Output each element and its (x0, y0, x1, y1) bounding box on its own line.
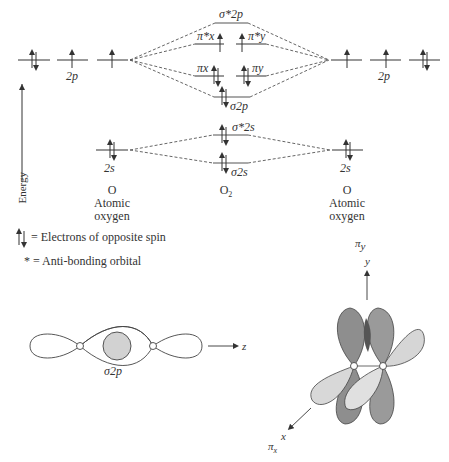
correlation-lines-2p (130, 23, 329, 97)
left-lobe (30, 334, 80, 358)
pi-y-label: πy (252, 61, 264, 75)
svg-text:O: O (343, 183, 352, 197)
sigma-2p-figure: z σ2p (30, 327, 247, 379)
svg-text:O2: O2 (220, 183, 233, 199)
mo-sigma-2s: σ2s (213, 155, 248, 179)
mo-sigma-star-2s: σ*2s (213, 120, 255, 143)
nucleus-right (380, 363, 387, 370)
mo-pi-star-y: π*y (236, 29, 266, 52)
svg-text:Atomic: Atomic (329, 196, 365, 210)
energy-axis: Energy (16, 84, 28, 204)
energy-label: Energy (16, 172, 28, 204)
left-2p-orbitals: 2p (18, 52, 128, 83)
sigma-star-2p-label: σ*2p (219, 7, 243, 21)
column-label-center: O2 (220, 183, 233, 199)
right-lobe (153, 334, 202, 358)
nucleus-left (77, 343, 84, 350)
svg-text:oxygen: oxygen (329, 209, 364, 223)
left-2s-orbital: 2s (96, 142, 128, 175)
svg-text:Atomic: Atomic (94, 196, 130, 210)
sigma-2p-caption: σ2p (104, 364, 122, 378)
nucleus-left (351, 363, 358, 370)
nucleus-right (150, 343, 157, 350)
pi-orbitals-figure: πy y x πx (268, 237, 424, 455)
z-axis-label: z (241, 340, 247, 352)
column-label-right: O Atomic oxygen (329, 183, 365, 223)
sigma-2p-label: σ2p (230, 99, 248, 113)
right-2p-label: 2p (378, 69, 390, 83)
pi-y-upper-lobe-left (337, 308, 364, 366)
molecule-symbol: O (220, 183, 229, 197)
legend: = Electrons of opposite spin * = Anti-bo… (19, 230, 166, 268)
right-2p-orbitals: 2p (331, 52, 440, 83)
mo-sigma-2p: σ2p (214, 89, 250, 113)
pi-star-x-label: π*x (197, 29, 215, 43)
pi-x-label: πx (197, 61, 209, 75)
mo-diagram-canvas: Energy 2p 2p σ*2p (0, 0, 449, 462)
pi-star-y-label: π*y (248, 29, 266, 43)
right-2s-orbital: 2s (332, 142, 363, 175)
left-2s-label: 2s (104, 161, 115, 175)
molecule-subscript: 2 (228, 190, 232, 199)
mo-pi-y: πy (236, 61, 266, 84)
mo-pi-star-x: π*x (195, 29, 224, 52)
pi-x-orbital-label: πx (268, 440, 278, 455)
overlap-region (103, 332, 131, 360)
mo-sigma-star-2p: σ*2p (215, 7, 248, 23)
svg-text:oxygen: oxygen (94, 209, 129, 223)
pi-y-orbital-label: πy (355, 237, 366, 252)
y-axis-label: y (364, 255, 370, 267)
legend-spin-text: = Electrons of opposite spin (31, 230, 166, 244)
legend-antibonding-text: * = Anti-bonding orbital (24, 254, 142, 268)
svg-text:O: O (108, 183, 117, 197)
x-axis-label: x (280, 430, 286, 442)
x-axis-arrow-icon (290, 408, 311, 428)
sigma-star-2s-label: σ*2s (232, 120, 255, 134)
column-label-left: O Atomic oxygen (94, 183, 130, 223)
mo-pi-x: πx (195, 61, 224, 84)
left-2p-label: 2p (66, 69, 78, 83)
sigma-2s-label: σ2s (231, 165, 248, 179)
correlation-lines-2s (130, 135, 330, 163)
right-2s-label: 2s (340, 161, 351, 175)
